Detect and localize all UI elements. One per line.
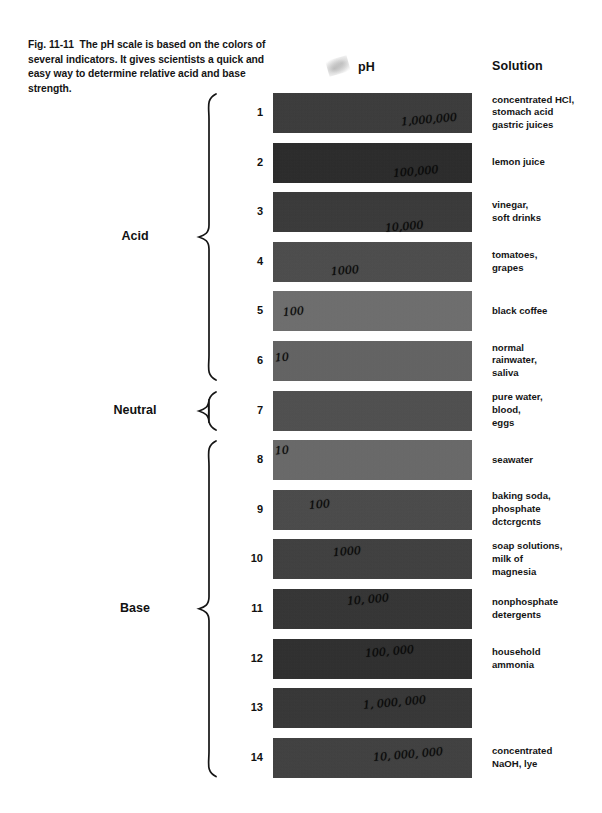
solution-label: seawater	[492, 454, 600, 467]
solution-label: pure water,blood,eggs	[492, 391, 600, 430]
ph-scale-row: 12100, 000householdammonia	[0, 639, 602, 679]
ph-scale-row: 41000tomatoes,grapes	[0, 242, 602, 282]
solution-label: nonphosphatedetergents	[492, 596, 600, 622]
ph-scale-row: 131, 000, 000	[0, 688, 602, 728]
handwritten-annotation: 1000	[330, 263, 359, 278]
ph-scale-row: 610normalrainwater,saliva	[0, 341, 602, 381]
ph-value-label: 12	[243, 652, 263, 664]
ph-color-swatch	[273, 490, 472, 530]
ph-value-label: 1	[243, 106, 263, 118]
solution-label: baking soda,phosphatedctcrgcnts	[492, 490, 600, 529]
ph-color-swatch	[273, 539, 472, 579]
ph-color-swatch	[273, 391, 472, 431]
ph-scale-row: 310,000vinegar,soft drinks	[0, 192, 602, 232]
ph-value-label: 3	[243, 205, 263, 217]
ph-value-label: 4	[243, 255, 263, 267]
handwritten-annotation: 100	[282, 305, 304, 320]
ph-scale-row: 9100baking soda,phosphatedctcrgcnts	[0, 490, 602, 530]
solution-label: tomatoes,grapes	[492, 249, 600, 275]
ph-color-swatch	[273, 242, 472, 282]
group-label-neutral: Neutral	[80, 403, 190, 417]
group-brace	[196, 391, 218, 431]
ph-scale-row: 2100,000lemon juice	[0, 143, 602, 183]
group-label-acid: Acid	[80, 229, 190, 243]
handwritten-annotation: 10,000	[385, 219, 424, 235]
solution-label: lemon juice	[492, 156, 600, 169]
solution-label: normalrainwater,saliva	[492, 342, 600, 381]
ph-scale-row: 5100black coffee	[0, 291, 602, 331]
ph-value-label: 10	[243, 552, 263, 564]
group-brace	[196, 93, 218, 381]
solution-label: concentrated HCl,stomach acidgastric jui…	[492, 94, 600, 133]
ph-value-label: 9	[243, 503, 263, 515]
group-label-base: Base	[80, 601, 190, 615]
handwritten-annotation: 100	[308, 497, 330, 512]
ph-scale-row: 1410, 000, 000concentratedNaOH, lye	[0, 738, 602, 778]
ph-value-label: 14	[243, 751, 263, 763]
ph-value-label: 11	[243, 602, 263, 614]
ph-value-label: 2	[243, 156, 263, 168]
ph-value-label: 7	[243, 404, 263, 416]
solution-label: soap solutions,milk ofmagnesia	[492, 540, 600, 579]
solution-label: concentratedNaOH, lye	[492, 745, 600, 771]
handwritten-annotation: 10	[274, 444, 289, 458]
solution-label: vinegar,soft drinks	[492, 199, 600, 225]
solution-label: black coffee	[492, 305, 600, 318]
handwritten-annotation: 10	[274, 350, 289, 364]
group-brace	[196, 440, 218, 778]
ph-value-label: 6	[243, 354, 263, 366]
ph-value-label: 13	[243, 701, 263, 713]
solution-label: householdammonia	[492, 646, 600, 672]
ph-color-swatch	[273, 440, 472, 480]
ph-scale-row: 101000soap solutions,milk ofmagnesia	[0, 539, 602, 579]
ph-value-label: 8	[243, 453, 263, 465]
ph-scale-row: 810seawater	[0, 440, 602, 480]
ph-color-swatch	[273, 341, 472, 381]
ph-scale-row: 11,000,000concentrated HCl,stomach acidg…	[0, 93, 602, 133]
ph-scale: 11,000,000concentrated HCl,stomach acidg…	[0, 0, 602, 813]
ph-color-swatch	[273, 143, 472, 183]
ph-color-swatch	[273, 192, 472, 232]
ph-value-label: 5	[243, 304, 263, 316]
